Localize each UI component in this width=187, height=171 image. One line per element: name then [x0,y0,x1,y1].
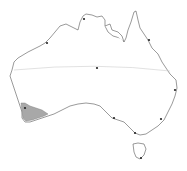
city-dot [148,39,150,41]
city-dot [24,107,26,109]
city-dot [113,117,115,119]
city-dot [140,157,142,159]
city-dot [83,18,85,20]
city-dot [174,89,176,91]
australia-map [0,0,187,171]
city-dot [46,42,48,44]
city-dot [96,67,98,69]
tasmania-coastline [133,143,146,159]
city-dot [160,118,162,120]
city-dot [134,132,136,134]
